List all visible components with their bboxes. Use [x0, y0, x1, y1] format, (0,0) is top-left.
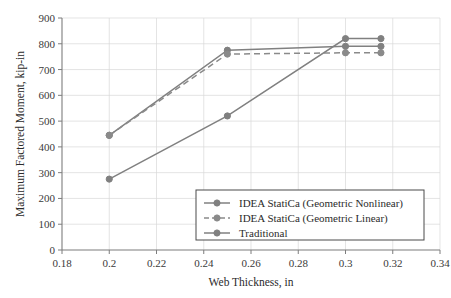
- y-tick-label: 100: [39, 218, 56, 230]
- x-tick-label: 0.18: [52, 257, 72, 269]
- data-point: [106, 132, 112, 138]
- x-tick-label: 0.24: [194, 257, 214, 269]
- y-tick-label: 400: [39, 141, 56, 153]
- axis-title-x: Web Thickness, in: [209, 276, 294, 289]
- data-point: [378, 50, 384, 56]
- x-tick-label: 0.2: [102, 257, 116, 269]
- legend-label: Traditional: [239, 227, 288, 239]
- series-line: [109, 53, 381, 135]
- y-tick-label: 900: [39, 12, 56, 24]
- data-point: [106, 176, 112, 182]
- series-2: [106, 36, 384, 183]
- y-tick-label: 700: [39, 64, 56, 76]
- series-line: [109, 39, 381, 179]
- x-tick-label: 0.22: [147, 257, 166, 269]
- legend-label: IDEA StatiCa (Geometric Nonlinear): [239, 197, 403, 210]
- chart-container: 0100200300400500600700800900 0.180.20.22…: [0, 0, 451, 298]
- tick-labels-y: 0100200300400500600700800900: [39, 12, 56, 256]
- legend-marker-icon: [214, 200, 220, 206]
- axis-title-y: Maximum Factored Moment, kip-in: [14, 51, 27, 217]
- data-series: [106, 36, 384, 183]
- y-tick-label: 300: [39, 167, 56, 179]
- y-tick-label: 500: [39, 115, 56, 127]
- tick-labels-x: 0.180.20.220.240.260.280.30.320.34: [52, 257, 450, 269]
- data-point: [224, 51, 230, 57]
- line-chart: 0100200300400500600700800900 0.180.20.22…: [0, 0, 451, 298]
- y-axis-title-text: Maximum Factored Moment, kip-in: [14, 51, 27, 217]
- x-tick-label: 0.26: [241, 257, 261, 269]
- x-tick-label: 0.3: [339, 257, 353, 269]
- data-point: [342, 36, 348, 42]
- x-tick-label: 0.32: [383, 257, 402, 269]
- y-tick-label: 800: [39, 38, 56, 50]
- x-tick-label: 0.34: [430, 257, 450, 269]
- data-point: [378, 43, 384, 49]
- x-tick-label: 0.28: [289, 257, 309, 269]
- legend-marker-icon: [214, 230, 220, 236]
- y-tick-label: 200: [39, 192, 56, 204]
- data-point: [342, 43, 348, 49]
- data-point: [378, 36, 384, 42]
- x-axis-title-text: Web Thickness, in: [209, 276, 294, 289]
- data-point: [224, 113, 230, 119]
- y-tick-label: 600: [39, 89, 56, 101]
- legend-marker-icon: [214, 215, 220, 221]
- series-0: [106, 43, 384, 138]
- series-line: [109, 46, 381, 135]
- chart-legend: IDEA StatiCa (Geometric Nonlinear)IDEA S…: [196, 190, 424, 240]
- data-point: [342, 50, 348, 56]
- legend-label: IDEA StatiCa (Geometric Linear): [239, 212, 388, 225]
- series-1: [106, 50, 384, 139]
- y-tick-label: 0: [50, 244, 56, 256]
